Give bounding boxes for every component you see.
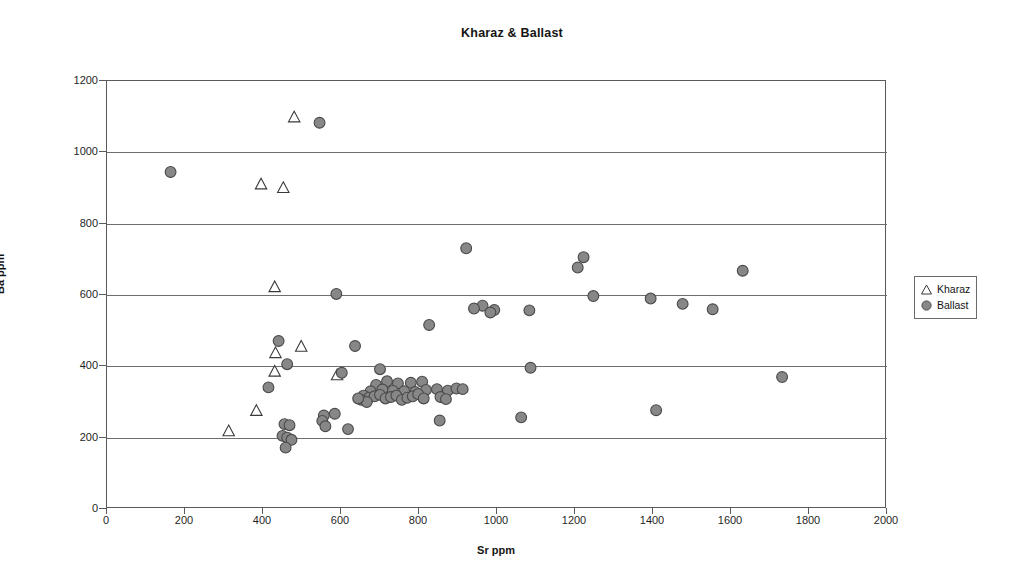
- data-point-ballast: [263, 382, 274, 393]
- data-point-ballast: [457, 384, 468, 395]
- x-axis-tick-label: 400: [253, 514, 271, 526]
- data-point-kharaz: [296, 341, 307, 352]
- y-axis-tick-label: 0: [54, 502, 98, 514]
- x-axis-tick-label: 1400: [640, 514, 664, 526]
- data-point-ballast: [273, 336, 284, 347]
- y-axis-tick-label: 600: [54, 288, 98, 300]
- x-axis-tick-mark: [574, 508, 575, 514]
- x-axis-tick-mark: [886, 508, 887, 514]
- data-point-ballast: [424, 320, 435, 331]
- data-point-ballast: [677, 299, 688, 310]
- data-point-ballast: [777, 372, 788, 383]
- data-point-ballast: [418, 393, 429, 404]
- data-point-ballast: [485, 307, 496, 318]
- data-point-ballast: [280, 442, 291, 453]
- legend-label-kharaz: Kharaz: [937, 283, 970, 295]
- chart-title: Kharaz & Ballast: [0, 26, 1024, 40]
- data-point-ballast: [469, 303, 480, 314]
- data-point-ballast: [737, 265, 748, 276]
- plot-canvas: [107, 81, 887, 509]
- y-axis-tick-label: 800: [54, 217, 98, 229]
- data-point-ballast: [284, 420, 295, 431]
- data-point-ballast: [651, 405, 662, 416]
- data-point-kharaz: [288, 111, 299, 122]
- x-axis-tick-mark: [106, 508, 107, 514]
- data-point-kharaz: [278, 182, 289, 193]
- x-axis-tick-label: 600: [331, 514, 349, 526]
- x-axis-tick-mark: [340, 508, 341, 514]
- data-point-ballast: [331, 289, 342, 300]
- data-point-ballast: [525, 362, 536, 373]
- data-point-ballast: [350, 341, 361, 352]
- y-axis-tick-mark: [99, 151, 106, 152]
- data-point-ballast: [461, 243, 472, 254]
- y-axis-title: Ba ppm: [0, 254, 6, 294]
- data-point-ballast: [320, 421, 331, 432]
- x-axis-tick-label: 200: [175, 514, 193, 526]
- y-axis-tick-label: 1000: [54, 145, 98, 157]
- data-point-ballast: [588, 291, 599, 302]
- x-axis-tick-label: 1000: [484, 514, 508, 526]
- x-axis-tick-label: 0: [103, 514, 109, 526]
- x-axis-tick-label: 2000: [874, 514, 898, 526]
- data-point-kharaz: [251, 405, 262, 416]
- data-point-kharaz: [223, 425, 234, 436]
- scatter-chart: Kharaz & Ballast Ba ppm 0200400600800100…: [0, 0, 1024, 582]
- data-point-ballast: [329, 408, 340, 419]
- y-axis-tick-mark: [99, 294, 106, 295]
- y-axis-tick-label: 400: [54, 359, 98, 371]
- chart-legend: Kharaz Ballast: [914, 276, 977, 319]
- x-axis-tick-label: 1200: [562, 514, 586, 526]
- data-point-ballast: [343, 424, 354, 435]
- x-axis-tick-mark: [262, 508, 263, 514]
- x-axis-tick-mark: [418, 508, 419, 514]
- data-point-ballast: [434, 415, 445, 426]
- y-axis-tick-label: 1200: [54, 74, 98, 86]
- y-axis-tick-labels: 020040060080010001200: [48, 0, 98, 582]
- legend-label-ballast: Ballast: [937, 299, 969, 311]
- x-axis-tick-label: 1800: [796, 514, 820, 526]
- data-point-ballast: [165, 167, 176, 178]
- data-point-ballast: [375, 364, 386, 375]
- x-axis-tick-label: 1600: [718, 514, 742, 526]
- data-point-ballast: [441, 394, 452, 405]
- plot-area: [106, 80, 886, 508]
- data-point-ballast: [282, 359, 293, 370]
- data-point-ballast: [707, 304, 718, 315]
- x-axis-tick-mark: [730, 508, 731, 514]
- x-axis-tick-mark: [496, 508, 497, 514]
- data-point-ballast: [516, 412, 527, 423]
- x-axis-tick-mark: [808, 508, 809, 514]
- data-point-kharaz: [270, 347, 281, 358]
- data-point-ballast: [524, 305, 535, 316]
- y-axis-tick-mark: [99, 437, 106, 438]
- y-axis-tick-mark: [99, 365, 106, 366]
- data-point-kharaz: [255, 178, 266, 189]
- data-point-ballast: [572, 262, 583, 273]
- data-point-ballast: [353, 393, 364, 404]
- y-axis-tick-mark: [99, 508, 106, 509]
- data-point-ballast: [645, 293, 656, 304]
- y-axis-tick-label: 200: [54, 431, 98, 443]
- x-axis-tick-label: 800: [409, 514, 427, 526]
- data-point-ballast: [578, 252, 589, 263]
- data-point-ballast: [336, 367, 347, 378]
- triangle-open-icon: [920, 283, 933, 296]
- circle-filled-icon: [920, 299, 933, 312]
- x-axis-tick-mark: [184, 508, 185, 514]
- legend-item-ballast[interactable]: Ballast: [920, 297, 970, 313]
- y-axis-tick-mark: [99, 80, 106, 81]
- data-point-ballast: [314, 117, 325, 128]
- legend-item-kharaz[interactable]: Kharaz: [920, 281, 970, 297]
- x-axis-tick-mark: [652, 508, 653, 514]
- x-axis-title: Sr ppm: [106, 544, 886, 556]
- y-axis-tick-mark: [99, 223, 106, 224]
- data-point-kharaz: [269, 281, 280, 292]
